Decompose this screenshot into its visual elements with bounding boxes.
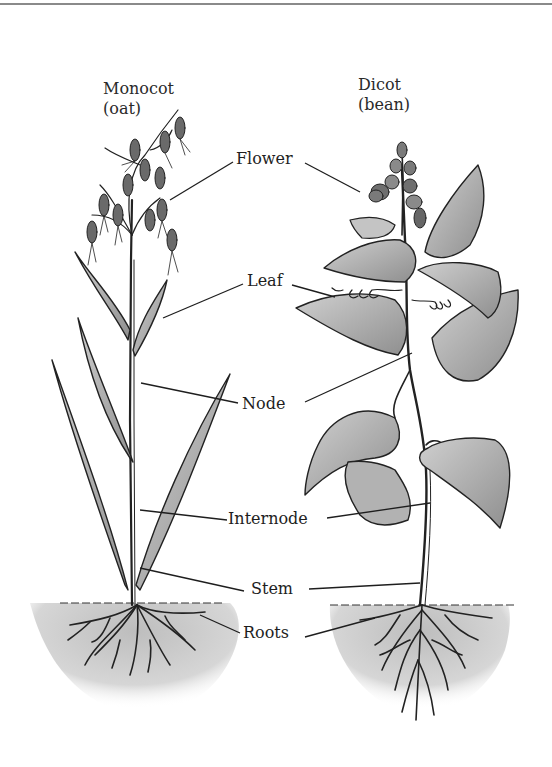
node-label: Node: [242, 395, 285, 413]
internode-label: Internode: [228, 510, 308, 528]
dicot-leaf: [296, 294, 407, 355]
monocot-leaf: [133, 280, 167, 356]
leaf-label: Leaf: [247, 272, 283, 290]
monocot-leaf: [136, 374, 230, 590]
leaf-leader-monocot: [163, 284, 243, 318]
dicot-stem: [402, 170, 427, 605]
dicot-leaf: [425, 165, 484, 258]
monocot-leaf: [52, 360, 128, 590]
dicot-leaf: [345, 461, 410, 525]
leaf-leader-dicot: [292, 285, 335, 297]
dicot-leaf: [420, 438, 510, 528]
dicot-leaf: [324, 240, 416, 282]
monocot-spikelets: [87, 117, 185, 251]
stem-label: Stem: [251, 580, 293, 598]
stem-leader-dicot: [309, 583, 420, 589]
monocot-plant: [52, 110, 230, 675]
flower-label: Flower: [236, 150, 293, 168]
flower-leader-monocot: [170, 162, 233, 200]
roots-label: Roots: [243, 624, 289, 642]
stem-leader-monocot: [140, 568, 244, 591]
dicot-leaf: [418, 263, 501, 318]
plant-illustration: [0, 0, 552, 767]
internode-leader-monocot: [140, 510, 227, 520]
monocot-stem: [130, 200, 132, 605]
dicot-soil: [330, 605, 515, 714]
flower-leader-dicot: [305, 163, 360, 192]
node-leader-dicot: [305, 353, 412, 402]
monocot-leaf: [75, 252, 130, 340]
dicot-leaf: [350, 218, 395, 239]
monocot-leaf: [78, 318, 133, 462]
